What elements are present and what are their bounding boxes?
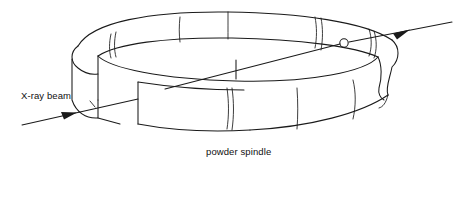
left-end-cap-outer <box>72 46 98 74</box>
band-top-outer-edge <box>78 12 392 46</box>
band-top-inner-edge <box>98 38 378 57</box>
right-end-cap-outer <box>387 40 398 95</box>
front-band-segment-dividers <box>227 80 355 130</box>
xray-beam-label: X-ray beam <box>21 90 71 101</box>
figure-root: X-ray beam powder spindle <box>0 0 465 197</box>
band-inner-front-edge <box>98 56 378 81</box>
front-divider-1b <box>232 88 234 130</box>
front-divider-1 <box>227 88 229 129</box>
transmitted-beam-arrowhead <box>393 30 410 40</box>
band-bottom-outer-edge-right <box>250 95 388 130</box>
left-end-cap-bottom <box>98 118 120 124</box>
back-divider-1b <box>115 32 117 57</box>
beam-exit-port-group <box>340 39 348 47</box>
front-divider-2 <box>297 88 298 129</box>
back-divider-5 <box>369 29 371 56</box>
back-divider-2 <box>179 17 180 42</box>
back-band-segment-dividers <box>110 12 377 58</box>
band-gap-top-edge <box>138 82 244 90</box>
back-divider-4b <box>321 18 323 50</box>
back-divider-5b <box>374 31 376 58</box>
beam-interior-line <box>165 44 340 89</box>
front-divider-3 <box>353 80 355 119</box>
xray-beam-label-leader <box>90 101 95 107</box>
back-divider-1 <box>110 34 112 58</box>
band-bottom-outer-edge-left <box>138 124 250 131</box>
right-end-cap-inner-edge <box>378 57 384 100</box>
incident-beam-arrowhead <box>61 112 77 120</box>
powder-spindle-label: powder spindle <box>206 146 271 157</box>
beam-exit-port-icon <box>340 39 348 47</box>
